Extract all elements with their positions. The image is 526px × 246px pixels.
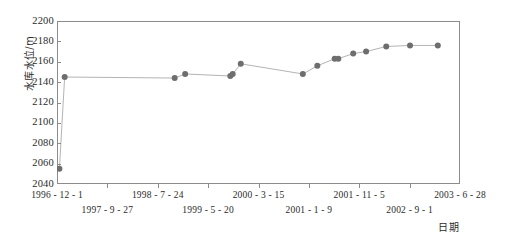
y-tick-mark bbox=[57, 62, 61, 63]
x-tick-mark bbox=[158, 184, 159, 188]
y-tick-mark bbox=[57, 103, 61, 104]
reservoir-water-level-chart: 水库水位/m 204020602080210021202140216021802… bbox=[0, 0, 526, 246]
x-tick-mark bbox=[410, 184, 411, 188]
y-tick-label: 2140 bbox=[20, 77, 54, 87]
data-point-marker bbox=[238, 61, 244, 67]
x-tick-label: 1997 - 9 - 27 bbox=[82, 205, 134, 216]
y-tick-mark bbox=[57, 143, 61, 144]
y-tick-mark bbox=[57, 82, 61, 83]
data-point-marker bbox=[314, 63, 320, 69]
data-series-layer bbox=[57, 21, 460, 184]
y-tick-label: 2080 bbox=[20, 138, 54, 148]
x-tick-label: 2001 - 11 - 5 bbox=[334, 190, 385, 201]
data-point-marker bbox=[300, 71, 306, 77]
y-tick-label: 2100 bbox=[20, 117, 54, 127]
data-point-marker bbox=[435, 42, 441, 48]
y-tick-mark bbox=[57, 123, 61, 124]
y-tick-label: 2200 bbox=[20, 16, 54, 26]
x-tick-label: 1996 - 12 - 1 bbox=[31, 190, 83, 201]
y-tick-label: 2180 bbox=[20, 36, 54, 46]
series-line bbox=[59, 45, 437, 168]
y-tick-label: 2120 bbox=[20, 97, 54, 107]
x-tick-label: 1999 - 5 - 20 bbox=[182, 205, 234, 216]
data-point-marker bbox=[230, 71, 236, 77]
data-point-marker bbox=[383, 43, 389, 49]
y-tick-label: 2060 bbox=[20, 158, 54, 168]
data-point-marker bbox=[62, 74, 68, 80]
data-point-marker bbox=[182, 71, 188, 77]
y-tick-label: 2160 bbox=[20, 56, 54, 66]
data-point-marker bbox=[407, 42, 413, 48]
y-tick-mark bbox=[57, 164, 61, 165]
data-point-marker bbox=[350, 51, 356, 57]
x-tick-label: 2003 - 6 - 28 bbox=[434, 190, 486, 201]
x-tick-label: 2002 - 9 - 1 bbox=[386, 205, 433, 216]
x-tick-label: 2001 - 1 - 9 bbox=[286, 205, 333, 216]
y-axis-ticks: 204020602080210021202140216021802200 bbox=[14, 0, 54, 246]
y-tick-mark bbox=[57, 41, 61, 42]
data-point-marker bbox=[172, 75, 178, 81]
x-tick-label: 1998 - 7 - 24 bbox=[132, 190, 184, 201]
data-point-marker bbox=[363, 49, 369, 55]
x-axis-title: 日期 bbox=[438, 222, 459, 233]
data-point-marker bbox=[335, 56, 341, 62]
x-tick-mark bbox=[309, 184, 310, 188]
x-tick-mark bbox=[107, 184, 108, 188]
x-tick-mark bbox=[259, 184, 260, 188]
data-point-marker bbox=[57, 166, 62, 172]
y-tick-label: 2040 bbox=[20, 179, 54, 189]
x-tick-label: 2000 - 3 - 15 bbox=[233, 190, 285, 201]
x-tick-mark bbox=[359, 184, 360, 188]
x-tick-mark bbox=[208, 184, 209, 188]
